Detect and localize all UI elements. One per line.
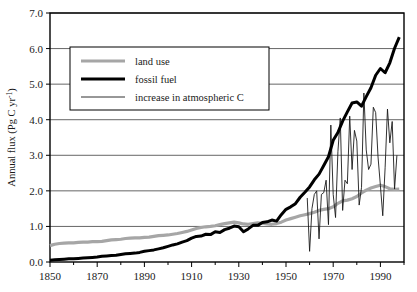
y-tick-label: 1.0 (29, 220, 43, 232)
x-tick-label: 1850 (39, 270, 62, 282)
y-tick-label: 7.0 (29, 7, 43, 19)
y-tick-label: 2.0 (29, 185, 43, 197)
legend-label: land use (135, 56, 170, 67)
y-tick-label: 6.0 (29, 43, 43, 55)
y-tick-label: 4.0 (29, 114, 43, 126)
y-tick-label: 0.0 (29, 256, 43, 268)
legend-label: fossil fuel (135, 74, 177, 85)
x-tick-label: 1990 (369, 270, 392, 282)
legend: land usefossil fuelincrease in atmospher… (70, 47, 269, 110)
y-tick-label: 3.0 (29, 149, 43, 161)
x-axis: 18501870189019101930195019701990 (39, 262, 404, 282)
y-axis-title: Annual flux (Pg C yr-1) (5, 88, 19, 187)
y-axis: 0.01.02.03.04.05.06.07.0 (29, 7, 50, 268)
legend-label: increase in atmospheric C (135, 92, 244, 103)
y-tick-label: 5.0 (29, 78, 43, 90)
x-tick-label: 1950 (275, 270, 298, 282)
x-tick-label: 1890 (133, 270, 156, 282)
x-tick-label: 1870 (86, 270, 109, 282)
chart-figure: 0.01.02.03.04.05.06.07.01850187018901910… (0, 0, 417, 292)
x-tick-label: 1970 (322, 270, 345, 282)
x-tick-label: 1930 (228, 270, 251, 282)
chart-svg: 0.01.02.03.04.05.06.07.01850187018901910… (0, 0, 417, 292)
x-tick-label: 1910 (181, 270, 204, 282)
